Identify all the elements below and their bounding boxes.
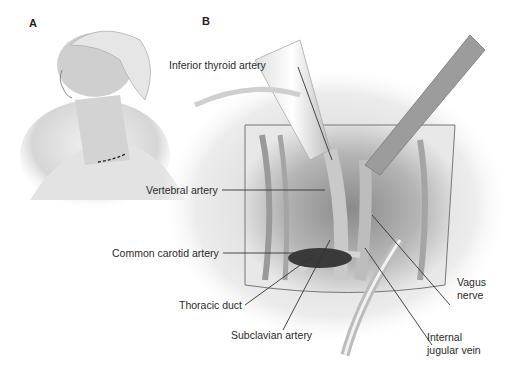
label-internal-jugular-vein-line1: Internal	[427, 331, 462, 344]
label-vagus-nerve-line2: nerve	[457, 289, 483, 302]
panel-letter-b: B	[202, 15, 210, 27]
label-internal-jugular-vein-line2: jugular vein	[427, 344, 481, 357]
panel-letter-a: A	[29, 17, 37, 29]
label-vertebral-artery: Vertebral artery	[146, 184, 218, 197]
label-inferior-thyroid-artery: Inferior thyroid artery	[169, 59, 266, 72]
label-subclavian-artery: Subclavian artery	[231, 329, 312, 342]
label-thoracic-duct: Thoracic duct	[179, 299, 242, 312]
label-common-carotid-artery: Common carotid artery	[112, 247, 219, 260]
anatomy-illustration	[0, 0, 517, 375]
label-vagus-nerve-line1: Vagus	[457, 276, 486, 289]
